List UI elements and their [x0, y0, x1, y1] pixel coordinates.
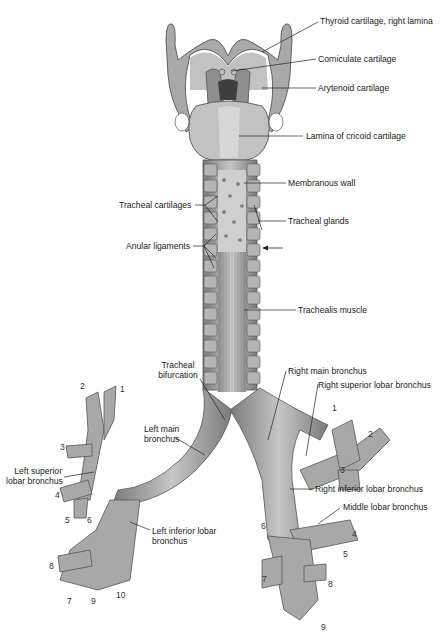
label-arytenoid-cartilage: Arytenoid cartilage [318, 83, 389, 93]
left-segment-8: 8 [49, 561, 54, 571]
cricoid-cartilage [175, 101, 283, 160]
label-left-superior-lobar-bronchus: Left superior lobar bronchus [6, 466, 62, 486]
label-right-main-bronchus: Right main bronchus [288, 366, 367, 376]
left-segment-2: 2 [80, 381, 85, 391]
label-corniculate-cartilage: Corniculate cartilage [318, 54, 396, 64]
label-tracheal-bifurcation: Tracheal bifurcation [155, 360, 201, 380]
left-segment-1: 1 [120, 384, 125, 394]
right-segment-7: 7 [262, 574, 267, 584]
arrow-indicator [262, 246, 283, 251]
label-line: bronchus [152, 536, 217, 546]
label-line: lobar bronchus [6, 476, 62, 486]
label-line: Left inferior lobar [152, 526, 217, 536]
right-segment-4: 4 [352, 529, 357, 539]
label-anular-ligaments: Anular ligaments [126, 241, 190, 251]
label-right-inferior-lobar-bronchus: Right inferior lobar bronchus [315, 484, 423, 494]
label-left-main-bronchus: Left main bronchus [144, 424, 179, 444]
label-cricoid-cartilage: Lamina of cricoid cartilage [306, 131, 406, 141]
airway-illustration [0, 0, 443, 632]
label-tracheal-glands: Tracheal glands [288, 216, 349, 226]
left-segment-5: 5 [65, 515, 70, 525]
right-segment-9: 9 [321, 622, 326, 632]
left-segment-3: 3 [60, 442, 65, 452]
label-membranous-wall: Membranous wall [288, 178, 355, 188]
label-line: bronchus [144, 434, 179, 444]
right-segment-2: 2 [368, 429, 373, 439]
label-right-superior-lobar-bronchus: Right superior lobar bronchus [318, 380, 431, 390]
label-trachealis-muscle: Trachealis muscle [298, 305, 367, 315]
label-tracheal-cartilages: Tracheal cartilages [119, 200, 191, 210]
right-segment-3: 3 [340, 465, 345, 475]
right-segment-8: 8 [328, 579, 333, 589]
right-segment-1: 1 [332, 403, 337, 413]
left-segment-9: 9 [91, 596, 96, 606]
label-line: bifurcation [155, 370, 201, 380]
left-segment-4: 4 [55, 490, 60, 500]
left-segment-6: 6 [87, 515, 92, 525]
left-segment-10: 10 [116, 590, 126, 600]
right-segment-5: 5 [343, 549, 348, 559]
label-line: Tracheal [155, 360, 201, 370]
right-segment-6: 6 [261, 521, 266, 531]
left-bronchial-tree [58, 386, 140, 590]
label-left-inferior-lobar-bronchus: Left inferior lobar bronchus [152, 526, 217, 546]
trachea [203, 160, 260, 392]
label-line: Left superior [6, 466, 62, 476]
left-segment-7: 7 [67, 596, 72, 606]
label-thyroid-cartilage: Thyroid cartilage, right lamina [320, 16, 433, 26]
label-middle-lobar-bronchus: Middle lobar bronchus [343, 502, 428, 512]
label-line: Left main [144, 424, 179, 434]
left-main-bronchus [112, 388, 232, 506]
